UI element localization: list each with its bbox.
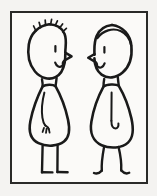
left-leg-near: [42, 146, 43, 172]
sketch-canvas: Two stick figures facing each other hand…: [0, 0, 157, 196]
line-drawing: [0, 0, 157, 196]
